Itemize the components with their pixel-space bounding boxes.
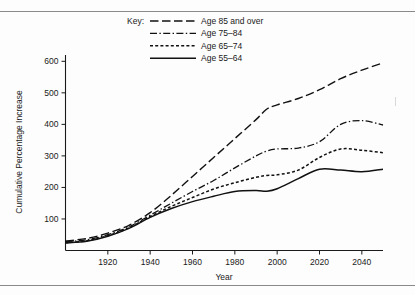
- y-tick-label: 400: [44, 119, 58, 129]
- figure-container: 100200300400500600 192019401960198020002…: [0, 0, 415, 295]
- y-tick-label: 500: [44, 88, 58, 98]
- series-line-age7584: [66, 121, 384, 242]
- y-tick-label: 100: [44, 214, 58, 224]
- y-tick-label: 300: [44, 151, 58, 161]
- x-tick-label: 1980: [225, 257, 244, 267]
- line-chart: 100200300400500600 192019401960198020002…: [0, 0, 415, 295]
- x-tick-label: 1940: [141, 257, 160, 267]
- x-tick-label: 2000: [268, 257, 287, 267]
- x-tick-label: 1960: [183, 257, 202, 267]
- y-axis-title: Cumulative Percentage Increase: [14, 90, 24, 214]
- legend-label-age6574: Age 65–74: [201, 41, 242, 51]
- x-tick-label: 1920: [98, 257, 117, 267]
- y-tick-label: 200: [44, 182, 58, 192]
- x-tick-label: 2040: [352, 257, 371, 267]
- legend-label-age7584: Age 75–84: [201, 28, 242, 38]
- series-line-age6574: [66, 149, 384, 243]
- chart-legend: Key: Age 85 and overAge 75–84Age 65–74Ag…: [127, 16, 264, 63]
- x-axis-ticks: 1920194019601980200020202040: [98, 251, 371, 267]
- legend-label-age5564: Age 55–64: [201, 53, 242, 63]
- series-line-age85plus: [66, 63, 384, 241]
- y-axis-ticks: 100200300400500600: [44, 56, 65, 224]
- legend-title: Key:: [127, 16, 144, 26]
- x-axis-title: Year: [215, 272, 232, 282]
- legend-entries: Age 85 and overAge 75–84Age 65–74Age 55–…: [150, 16, 264, 63]
- series-group: [66, 63, 384, 243]
- x-tick-label: 2020: [310, 257, 329, 267]
- legend-label-age85plus: Age 85 and over: [201, 16, 264, 26]
- y-tick-label: 600: [44, 56, 58, 66]
